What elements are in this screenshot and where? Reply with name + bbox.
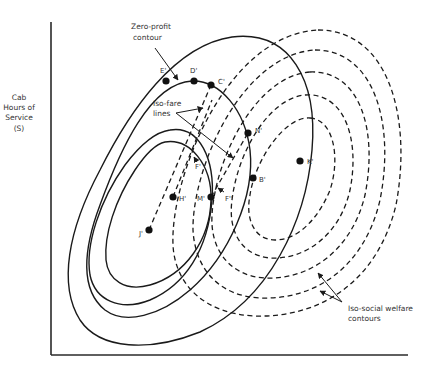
point-c: [207, 81, 214, 88]
svg-text:Iso-social welfare: Iso-social welfare: [348, 304, 413, 313]
label-j: J': [138, 230, 143, 238]
label-n: N': [255, 127, 262, 135]
point-b: [249, 174, 256, 181]
profit-contours: [68, 36, 313, 345]
point-n: [244, 129, 251, 136]
label-e: E': [160, 67, 166, 75]
label-m: M': [197, 195, 205, 203]
svg-text:Hours of: Hours of: [3, 103, 35, 112]
label-k: K': [307, 158, 314, 166]
label-b: B': [259, 176, 266, 184]
annotation-arrows: [155, 48, 342, 302]
point-m: [207, 193, 214, 200]
svg-text:(S): (S): [14, 124, 25, 133]
label-c: C': [218, 78, 225, 86]
svg-text:Cab: Cab: [12, 93, 27, 102]
svg-text:Service: Service: [5, 113, 33, 122]
label-h: H': [179, 195, 186, 203]
point-d: [190, 77, 197, 84]
iso-fare-line-3: [211, 133, 248, 197]
welfare-arrow-1: [318, 273, 342, 302]
svg-text:Zero-profit: Zero-profit: [131, 22, 171, 31]
iso-welfare-label: Iso-social welfare contours: [348, 304, 413, 323]
f-prime-arrow: [194, 157, 197, 162]
welfare-contour-4: [193, 50, 385, 298]
label-f-prime: F': [195, 163, 201, 171]
label-f-double-prime: F'': [225, 195, 233, 203]
zero-profit-label: Zero-profit contour: [131, 22, 171, 42]
economic-contour-diagram: Cab Hours of Service (S): [0, 0, 433, 373]
y-axis-label: Cab Hours of Service (S): [3, 93, 35, 133]
svg-text:contour: contour: [133, 33, 163, 42]
f-double-prime-arrow: [218, 188, 224, 192]
point-k: [296, 157, 303, 164]
zero-profit-arrow: [155, 48, 178, 80]
iso-fare-line-2: [173, 100, 212, 197]
svg-text:Iso-fare: Iso-fare: [153, 99, 182, 108]
point-e: [162, 77, 169, 84]
label-d: D': [190, 67, 197, 75]
svg-text:lines: lines: [153, 109, 171, 118]
svg-text:contours: contours: [348, 314, 381, 323]
point-j: [145, 226, 152, 233]
iso-fare-label: Iso-fare lines: [153, 99, 182, 118]
point-h: [169, 193, 176, 200]
